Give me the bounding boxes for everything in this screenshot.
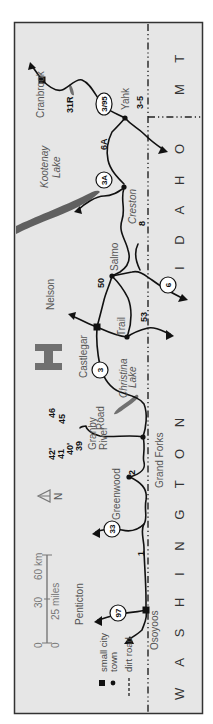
town-marker-creston	[121, 184, 126, 189]
route-53: 53	[139, 312, 149, 322]
town-legend-icon	[111, 681, 116, 686]
small-city-legend-icon	[99, 680, 105, 686]
label-road: Road	[95, 406, 106, 430]
label-yahk: Yahk	[120, 87, 131, 110]
route-3-5: 3-5	[135, 96, 145, 109]
svg-text:town: town	[108, 652, 119, 672]
small-city-marker-castlegar	[94, 324, 101, 331]
svg-text:dirt road: dirt road	[123, 637, 134, 672]
highway-shield-6: 6	[160, 277, 176, 293]
route-46: 46	[47, 408, 57, 418]
route-1: 1	[136, 551, 146, 556]
svg-text:6: 6	[164, 282, 173, 287]
route-50: 50	[96, 278, 106, 288]
svg-text:N: N	[53, 493, 64, 500]
label-kootenay: Kootenay	[39, 145, 50, 188]
svg-text:60 km: 60 km	[33, 553, 44, 580]
svg-text:97: 97	[114, 608, 123, 617]
label-castlegar: Castlegar	[78, 335, 89, 378]
svg-text:0: 0	[33, 642, 44, 648]
highway-shield-3: 3	[92, 362, 108, 378]
road-map: M T I D A H O W A S H I N G T O N	[0, 0, 213, 724]
label-trail: Trail	[116, 317, 127, 336]
route-45: 45	[57, 414, 67, 424]
svg-text:3/95: 3/95	[100, 96, 109, 112]
route-8: 8	[137, 221, 147, 226]
svg-text:33: 33	[108, 524, 117, 533]
highway-shield-3a: 3A	[96, 172, 112, 188]
route-39: 39	[74, 441, 84, 451]
town-marker-salmo	[109, 273, 114, 278]
label-creston: Creston	[127, 189, 138, 224]
svg-text:30: 30	[33, 596, 44, 608]
label-nelson: Nelson	[45, 279, 56, 310]
town-marker-yahk	[122, 115, 127, 120]
label-kootenay-lake: Lake	[51, 156, 62, 178]
state-label-idaho: I D A H O	[172, 135, 187, 270]
state-label-washington: W A S H I N G T O N	[172, 409, 187, 700]
label-salmo: Salmo	[109, 242, 120, 271]
label-greenwood: Greenwood	[111, 468, 122, 520]
label-osoyoos: Osoyoos	[149, 611, 160, 650]
label-christina-lake: Lake	[127, 366, 138, 388]
label-penticton: Penticton	[74, 583, 85, 625]
highway-shield-97: 97	[110, 605, 126, 621]
state-label-montana: M T	[172, 46, 187, 95]
svg-text:25 miles: 25 miles	[50, 583, 61, 620]
svg-text:3A: 3A	[100, 175, 109, 185]
label-cranbrook: Cranbrook	[35, 70, 46, 118]
highway-shield-33: 33	[104, 521, 120, 537]
route-2: 2	[127, 470, 137, 475]
highway-shield-3-95: 3/95	[96, 93, 112, 115]
route-31r: 31R	[65, 96, 75, 113]
route-6a: 6A	[99, 138, 109, 150]
svg-text:0: 0	[50, 642, 61, 648]
label-grand-forks: Grand Forks	[154, 432, 165, 488]
svg-text:3: 3	[96, 367, 105, 372]
town-marker-grand-forks	[140, 434, 145, 439]
